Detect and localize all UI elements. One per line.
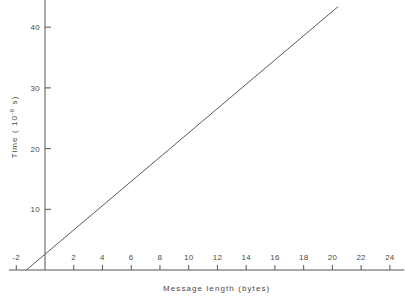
x-tick-label-4: 4 xyxy=(100,253,105,262)
chart-figure: -22468101214161820222410203040Message le… xyxy=(0,0,405,298)
y-tick-label-30: 30 xyxy=(31,84,41,93)
x-tick-label-14: 14 xyxy=(241,253,251,262)
y-axis-title-group: Time ( 10-6 s) xyxy=(9,96,19,159)
x-tick-label-10: 10 xyxy=(184,253,194,262)
x-tick-label-2: 2 xyxy=(71,253,76,262)
y-tick-label-10: 10 xyxy=(31,205,41,214)
y-tick-label-40: 40 xyxy=(31,23,41,32)
y-axis-title: Time ( 10-6 s) xyxy=(9,96,19,159)
x-axis-title: Message length (bytes) xyxy=(163,284,270,293)
x-tick-label-8: 8 xyxy=(158,253,163,262)
x-tick-label-20: 20 xyxy=(328,253,338,262)
x-tick-label-24: 24 xyxy=(385,253,395,262)
x-tick-label-22: 22 xyxy=(356,253,366,262)
y-tick-label-20: 20 xyxy=(31,145,41,154)
x-tick-label-18: 18 xyxy=(299,253,309,262)
data-series-0 xyxy=(26,7,338,270)
line-chart-canvas: -22468101214161820222410203040Message le… xyxy=(0,0,405,298)
x-tick-label--2: -2 xyxy=(12,253,20,262)
x-tick-label-16: 16 xyxy=(270,253,280,262)
x-tick-label-6: 6 xyxy=(129,253,134,262)
x-tick-label-12: 12 xyxy=(213,253,223,262)
